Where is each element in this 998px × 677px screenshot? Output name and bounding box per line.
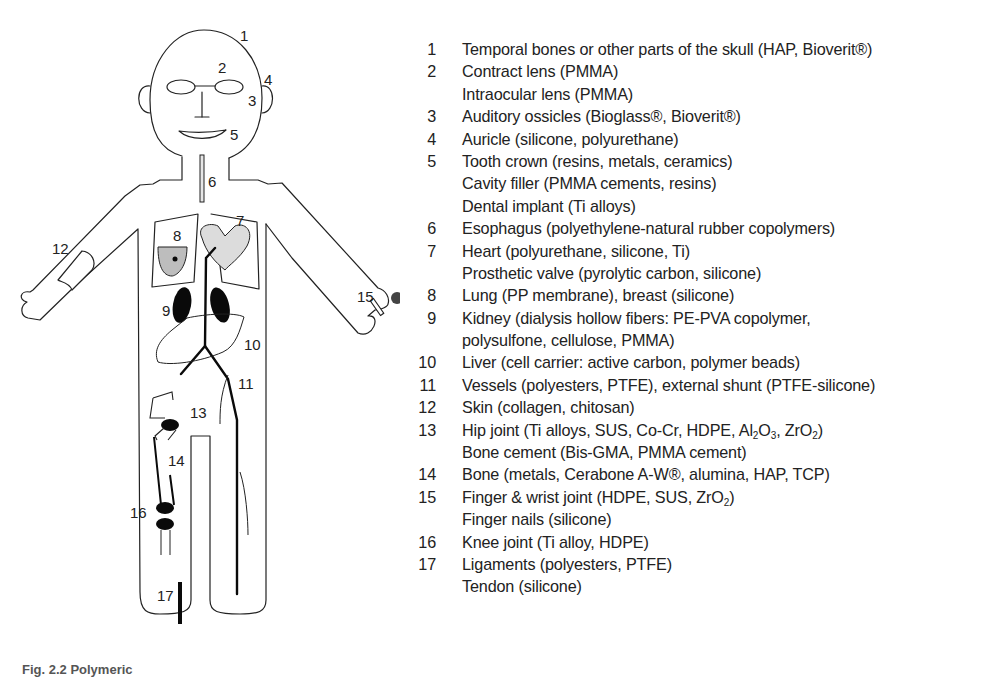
knee-joint-lower (156, 518, 174, 530)
legend-row: 16Knee joint (Ti alloy, HDPE) (396, 531, 996, 553)
legend-text: Liver (cell carrier: active carbon, poly… (436, 351, 800, 373)
legend-text: Prosthetic valve (pyrolytic carbon, sili… (436, 262, 761, 284)
legend-row: Prosthetic valve (pyrolytic carbon, sili… (396, 262, 996, 284)
legend-number: 6 (396, 217, 436, 239)
legend-row: polysulfone, cellulose, PMMA) (396, 329, 996, 351)
legend-text: Auricle (silicone, polyurethane) (436, 128, 679, 150)
mouth (179, 130, 226, 138)
legend-row: Bone cement (Bis-GMA, PMMA cement) (396, 441, 996, 463)
right-eye-lens (215, 80, 243, 94)
liver (156, 314, 244, 363)
label-9: 9 (162, 302, 170, 319)
legend-row: Dental implant (Ti alloys) (396, 195, 996, 217)
legend-text: Knee joint (Ti alloy, HDPE) (436, 531, 649, 553)
legend-number (396, 329, 436, 351)
legend-text: Tendon (silicone) (436, 575, 582, 597)
shunt-line-lower (240, 472, 248, 535)
torso-right-outline (229, 158, 389, 334)
legend-row: 5Tooth crown (resins, metals, ceramics) (396, 150, 996, 172)
hip-joint (161, 419, 179, 431)
label-8: 8 (173, 227, 181, 244)
legend-text: Bone (metals, Cerabone A-W®, alumina, HA… (436, 463, 830, 485)
legend-row: 10Liver (cell carrier: active carbon, po… (396, 351, 996, 373)
label-2: 2 (218, 59, 226, 76)
legend-number: 14 (396, 463, 436, 485)
legend-number: 16 (396, 531, 436, 553)
label-13: 13 (190, 404, 207, 421)
label-4: 4 (264, 71, 272, 88)
legend-text: Temporal bones or other parts of the sku… (436, 38, 872, 60)
human-body-diagram: 1 2 3 4 5 6 7 8 9 10 11 12 13 14 15 16 1… (0, 0, 400, 673)
right-kidney (207, 285, 234, 324)
legend-row: 15Finger & wrist joint (HDPE, SUS, ZrO2) (396, 486, 996, 508)
legend-row: 13Hip joint (Ti alloys, SUS, Co-Cr, HDPE… (396, 419, 996, 441)
label-7: 7 (236, 212, 244, 229)
legend-number (396, 441, 436, 463)
legend-number: 12 (396, 396, 436, 418)
left-ear (139, 86, 150, 113)
legend-text: Auditory ossicles (Bioglass®, Bioverit®) (436, 105, 741, 127)
legend-text: Kidney (dialysis hollow fibers: PE-PVA c… (436, 307, 811, 329)
legend-number: 1 (396, 38, 436, 60)
hip-socket (150, 392, 173, 418)
legend-number: 17 (396, 553, 436, 575)
legend-text: Esophagus (polyethylene-natural rubber c… (436, 217, 835, 239)
legend-row: 1Temporal bones or other parts of the sk… (396, 38, 996, 60)
ligament (178, 582, 182, 624)
legend-text: polysulfone, cellulose, PMMA) (436, 329, 674, 351)
legend-row: 7Heart (polyurethane, silicone, Ti) (396, 240, 996, 262)
legend-text: Ligaments (polyesters, PTFE) (436, 553, 672, 575)
legend-number: 10 (396, 351, 436, 373)
knee-joint-upper (156, 502, 174, 514)
legend-text: Skin (collagen, chitosan) (436, 396, 635, 418)
legend-row: 14Bone (metals, Cerabone A-W®, alumina, … (396, 463, 996, 485)
legend-row: Finger nails (silicone) (396, 508, 996, 530)
legend-number (396, 262, 436, 284)
legend-row: 8Lung (PP membrane), breast (silicone) (396, 284, 996, 306)
legend-text: Cavity filler (PMMA cements, resins) (436, 172, 717, 194)
legend-number: 2 (396, 60, 436, 82)
legend-row: 9Kidney (dialysis hollow fibers: PE-PVA … (396, 307, 996, 329)
legend-text: Dental implant (Ti alloys) (436, 195, 636, 217)
label-10: 10 (244, 336, 261, 353)
legend-text: Intraocular lens (PMMA) (436, 83, 633, 105)
legend-number: 3 (396, 105, 436, 127)
legend-text: Finger & wrist joint (HDPE, SUS, ZrO2) (436, 486, 734, 508)
legend-row: 11Vessels (polyesters, PTFE), external s… (396, 374, 996, 396)
legend-row: 17Ligaments (polyesters, PTFE) (396, 553, 996, 575)
esophagus (200, 155, 204, 202)
left-eye-lens (167, 80, 195, 94)
legend-number: 5 (396, 150, 436, 172)
legend-number (396, 195, 436, 217)
label-5: 5 (230, 126, 238, 143)
label-3: 3 (248, 92, 256, 109)
legend-number: 11 (396, 374, 436, 396)
legend-text: Vessels (polyesters, PTFE), external shu… (436, 374, 875, 396)
legend-text: Hip joint (Ti alloys, SUS, Co-Cr, HDPE, … (436, 419, 823, 441)
legend-row: 12Skin (collagen, chitosan) (396, 396, 996, 418)
figure-caption: Fig. 2.2 Polymeric (22, 662, 133, 677)
label-17: 17 (157, 587, 174, 604)
legend-text: Lung (PP membrane), breast (silicone) (436, 284, 734, 306)
legend-number (396, 172, 436, 194)
label-1: 1 (240, 27, 248, 44)
right-ear (262, 86, 273, 113)
legend-text: Tooth crown (resins, metals, ceramics) (436, 150, 732, 172)
heart (201, 225, 250, 271)
legend-number: 15 (396, 486, 436, 508)
legend-text: Finger nails (silicone) (436, 508, 612, 530)
legend-number: 13 (396, 419, 436, 441)
shunt-line (220, 375, 228, 424)
legend-number (396, 508, 436, 530)
biomaterials-legend: 1Temporal bones or other parts of the sk… (396, 38, 996, 598)
legend-number: 9 (396, 307, 436, 329)
legend-text: Bone cement (Bis-GMA, PMMA cement) (436, 441, 747, 463)
femur-bone (154, 437, 174, 505)
legend-number: 4 (396, 128, 436, 150)
legend-row: 4Auricle (silicone, polyurethane) (396, 128, 996, 150)
legend-number (396, 83, 436, 105)
left-kidney (170, 286, 194, 325)
legend-row: Intraocular lens (PMMA) (396, 83, 996, 105)
legend-text: Heart (polyurethane, silicone, Ti) (436, 240, 690, 262)
